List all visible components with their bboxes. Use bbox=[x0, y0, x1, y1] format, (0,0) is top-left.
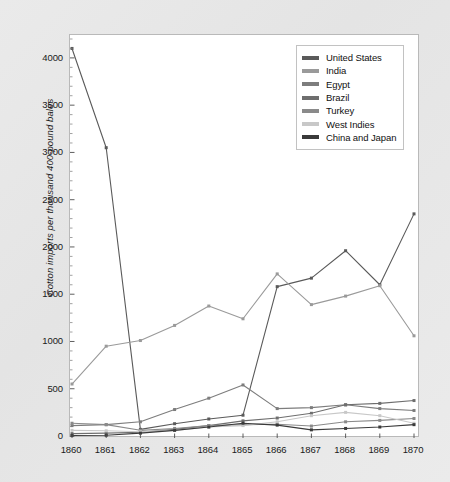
legend-item-united-states[interactable]: United States bbox=[302, 51, 396, 64]
legend-item-label: China and Japan bbox=[326, 132, 396, 143]
y-tick-label: 3000 bbox=[23, 146, 63, 157]
legend-item-label: United States bbox=[326, 52, 382, 63]
legend-swatch-icon bbox=[302, 135, 319, 139]
legend-swatch-icon bbox=[302, 109, 319, 113]
legend-swatch-icon bbox=[302, 122, 319, 126]
legend-item-label: West Indies bbox=[326, 119, 374, 130]
legend-swatch-icon bbox=[302, 82, 319, 86]
legend-item-label: Brazil bbox=[326, 92, 349, 103]
legend-swatch-icon bbox=[302, 56, 319, 60]
y-tick-label: 0 bbox=[23, 430, 63, 441]
legend-item-india[interactable]: India bbox=[302, 64, 396, 77]
series-brazil bbox=[71, 399, 416, 435]
y-tick-label: 500 bbox=[23, 382, 63, 393]
y-tick-label: 2500 bbox=[23, 193, 63, 204]
y-tick-label: 4000 bbox=[23, 51, 63, 62]
line-chart-figure: Cotton imports per thousand 400-pound ba… bbox=[22, 14, 432, 469]
legend-item-label: India bbox=[326, 65, 346, 76]
legend-item-turkey[interactable]: Turkey bbox=[302, 104, 396, 117]
legend-item-egypt[interactable]: Egypt bbox=[302, 78, 396, 91]
y-tick-label: 2000 bbox=[23, 240, 63, 251]
legend-item-label: Egypt bbox=[326, 79, 350, 90]
chart-legend: United StatesIndiaEgyptBrazilTurkeyWest … bbox=[296, 45, 404, 150]
legend-swatch-icon bbox=[302, 96, 319, 100]
y-tick-label: 1000 bbox=[23, 335, 63, 346]
legend-item-china-and-japan[interactable]: China and Japan bbox=[302, 131, 396, 144]
legend-item-west-indies[interactable]: West Indies bbox=[302, 117, 396, 130]
y-tick-label: 1500 bbox=[23, 288, 63, 299]
legend-item-label: Turkey bbox=[326, 105, 354, 116]
legend-item-brazil[interactable]: Brazil bbox=[302, 91, 396, 104]
series-india bbox=[71, 272, 416, 385]
x-tick-label: 1870 bbox=[393, 444, 433, 455]
legend-swatch-icon bbox=[302, 69, 319, 73]
y-tick-label: 3500 bbox=[23, 99, 63, 110]
